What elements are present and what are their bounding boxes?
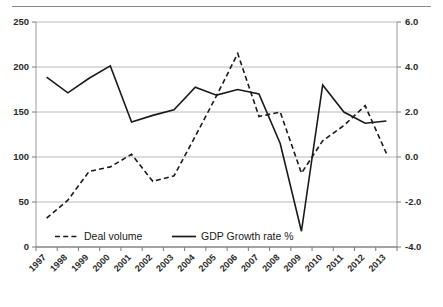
- right-tick-label: -4.0: [405, 241, 421, 252]
- x-axis-labels: 1997199819992000200120022003200420052006…: [27, 252, 388, 273]
- left-axis-ticks: [32, 22, 36, 247]
- x-tick-label: 2002: [133, 252, 154, 273]
- x-tick-label: 2006: [218, 252, 239, 273]
- x-tick-label: 2000: [91, 252, 112, 273]
- right-axis-ticks: [397, 22, 401, 247]
- right-tick-label: 6.0: [405, 16, 418, 27]
- right-tick-label: 4.0: [405, 61, 418, 72]
- x-tick-label: 1999: [69, 252, 90, 273]
- legend-label-2: GDP Growth rate %: [201, 230, 294, 242]
- x-tick-label: 2001: [112, 252, 133, 273]
- x-tick-label: 2003: [154, 252, 175, 273]
- right-tick-label: 0.0: [405, 151, 418, 162]
- left-tick-label: 250: [13, 16, 29, 27]
- right-tick-label: 2.0: [405, 106, 418, 117]
- x-tick-label: 2010: [303, 252, 324, 273]
- left-axis-labels: 050100150200250: [13, 16, 29, 252]
- x-axis-ticks: [36, 247, 397, 251]
- left-tick-label: 150: [13, 106, 29, 117]
- x-tick-label: 2008: [260, 252, 281, 273]
- x-tick-label: 2009: [282, 252, 303, 273]
- line-chart: 050100150200250 -4.0-2.00.02.04.06.0 199…: [0, 0, 443, 307]
- x-tick-label: 1998: [48, 252, 69, 273]
- x-tick-label: 2013: [367, 252, 388, 273]
- chart-container: 050100150200250 -4.0-2.00.02.04.06.0 199…: [0, 0, 443, 307]
- x-tick-label: 2012: [345, 252, 366, 273]
- left-tick-label: 200: [13, 61, 29, 72]
- right-axis-labels: -4.0-2.00.02.04.06.0: [405, 16, 421, 252]
- x-tick-label: 2005: [197, 252, 218, 273]
- x-tick-label: 2011: [324, 252, 345, 273]
- left-tick-label: 0: [24, 241, 29, 252]
- legend-label-1: Deal volume: [84, 230, 143, 242]
- plot-area: [36, 22, 397, 247]
- x-tick-label: 1997: [27, 252, 48, 273]
- left-tick-label: 50: [18, 196, 29, 207]
- x-tick-label: 2004: [175, 252, 196, 273]
- right-tick-label: -2.0: [405, 196, 421, 207]
- x-tick-label: 2007: [239, 252, 260, 273]
- left-tick-label: 100: [13, 151, 29, 162]
